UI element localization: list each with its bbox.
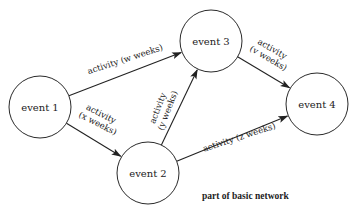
edge-event1-to-event3: activity (w weeks): [69, 42, 181, 96]
edge-event2-to-event4: activity (z weeks): [177, 116, 288, 161]
edges-group: activity (w weeks) activity (x weeks) ac…: [67, 35, 294, 162]
event-2-label: event 2: [129, 168, 167, 179]
edge-event3-to-event4: activity (v weeks): [238, 35, 294, 88]
edge-label-w: activity (w weeks): [86, 42, 164, 76]
node-event-3: event 3: [180, 10, 242, 72]
edge-label-x: activity (x weeks): [77, 100, 123, 137]
node-event-2: event 2: [117, 142, 179, 204]
edge-label-z: activity (z weeks): [201, 121, 276, 154]
node-event-1: event 1: [9, 76, 71, 138]
event-3-label: event 3: [192, 36, 230, 47]
event-4-label: event 4: [298, 99, 336, 110]
diagram-caption: part of basic network: [202, 191, 290, 201]
node-event-4: event 4: [286, 73, 348, 135]
edge-event1-to-event2: activity (x weeks): [67, 100, 124, 156]
network-diagram: activity (w weeks) activity (x weeks) ac…: [0, 0, 355, 215]
edge-event2-to-event3: activity (y weeks): [146, 70, 197, 145]
nodes-group: event 1 event 2 event 3 event 4: [9, 10, 348, 204]
edge-label-y: activity (y weeks): [146, 86, 180, 132]
event-1-label: event 1: [21, 102, 59, 113]
